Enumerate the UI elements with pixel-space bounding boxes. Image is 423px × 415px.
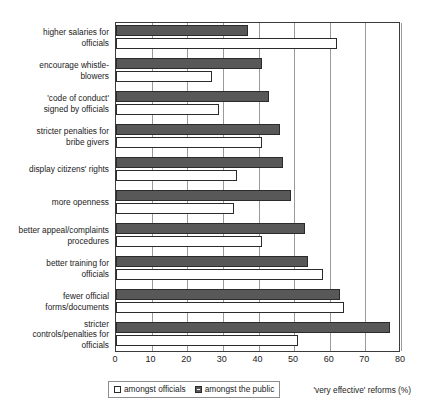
bar-amongst-officials [116,302,344,313]
legend-label-amongst-the-public: amongst the public [205,384,275,394]
category-label-line: forms/documents [0,302,109,313]
bar-amongst-the-public [116,91,269,102]
category-label-line: higher salaries for [0,27,109,38]
bar-group [116,320,399,353]
category-label-line: better training for [0,258,109,269]
category-label-line: more openness [0,197,109,208]
category-label: encourage whistle-blowers [0,60,109,81]
filled-square-icon [195,386,202,393]
bar-amongst-the-public [116,322,390,333]
bar-amongst-the-public [116,190,291,201]
category-label-line: officials [0,340,109,351]
legend-item-amongst-officials: amongst officials [114,384,186,394]
bar-group [116,56,399,89]
bar-amongst-the-public [116,124,280,135]
category-label: stricter penalties forbribe givers [0,126,109,147]
bar-amongst-officials [116,170,237,181]
x-tick-label: 20 [181,354,191,364]
category-label: more openness [0,197,109,208]
category-label: display citizens' rights [0,164,109,175]
bar-group [116,188,399,221]
bar-group [116,287,399,320]
category-label-line: better appeal/complaints [0,225,109,236]
category-label-line: fewer official [0,291,109,302]
x-tick-label: 30 [217,354,227,364]
x-tick-label: 10 [146,354,156,364]
category-label: strictercontrols/penalties forofficials [0,319,109,351]
bars-layer [116,23,399,351]
category-label-line: 'code of conduct' [0,93,109,104]
category-label-line: officials [0,269,109,280]
bar-group [116,155,399,188]
category-label: better training forofficials [0,258,109,279]
chart-title [0,0,423,2]
category-label-line: procedures [0,236,109,247]
bar-group [116,89,399,122]
x-tick-label: 50 [288,354,298,364]
category-axis-labels: higher salaries forofficialsencourage wh… [0,22,112,352]
open-square-icon [114,386,121,393]
bar-chart-figure: higher salaries forofficialsencourage wh… [0,0,423,415]
bar-amongst-officials [116,38,337,49]
category-label-line: display citizens' rights [0,164,109,175]
category-label: better appeal/complaintsprocedures [0,225,109,246]
category-label: 'code of conduct'signed by officials [0,93,109,114]
bar-amongst-the-public [116,256,308,267]
x-tick-label: 70 [359,354,369,364]
bar-amongst-officials [116,71,212,82]
x-tick-label: 40 [252,354,262,364]
bar-amongst-officials [116,137,262,148]
bar-group [116,221,399,254]
gridline [401,23,402,351]
bar-amongst-the-public [116,58,262,69]
x-axis-tick-labels: 01020304050607080 [0,354,423,368]
plot-area [115,22,400,352]
bar-group [116,23,399,56]
bar-amongst-the-public [116,223,305,234]
category-label: higher salaries forofficials [0,27,109,48]
category-label-line: stricter penalties for [0,126,109,137]
bar-amongst-officials [116,104,219,115]
bar-amongst-officials [116,203,234,214]
category-label-line: signed by officials [0,104,109,115]
bar-amongst-the-public [116,25,248,36]
legend-item-amongst-the-public: amongst the public [195,384,275,394]
category-label-line: stricter [0,319,109,330]
bar-amongst-the-public [116,289,340,300]
bar-amongst-the-public [116,157,283,168]
x-tick-label: 60 [324,354,334,364]
x-axis-caption: 'very effective' reforms (%) [313,385,411,395]
bar-group [116,254,399,287]
category-label-line: officials [0,38,109,49]
bar-amongst-officials [116,236,262,247]
category-label: fewer officialforms/documents [0,291,109,312]
category-label-line: controls/penalties for [0,329,109,340]
x-tick-label: 0 [112,354,117,364]
bar-amongst-officials [116,335,298,346]
category-label-line: bribe givers [0,137,109,148]
legend-label-amongst-officials: amongst officials [124,384,186,394]
chart-legend: amongst officials amongst the public [108,381,280,398]
x-tick-label: 80 [395,354,405,364]
category-label-line: blowers [0,71,109,82]
bar-amongst-officials [116,269,323,280]
category-label-line: encourage whistle- [0,60,109,71]
bar-group [116,122,399,155]
